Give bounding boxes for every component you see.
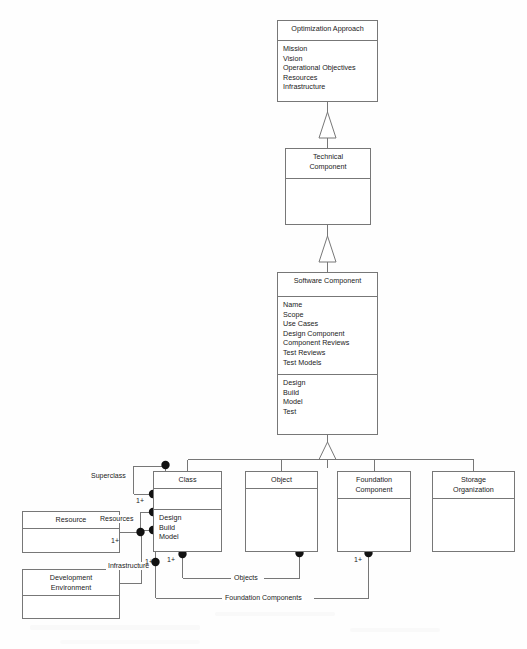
multiplicity-infrastructure: 1+	[145, 558, 153, 566]
class-class[interactable]: Class Design Build Model	[153, 471, 222, 552]
class-attributes	[286, 179, 370, 185]
edge-label-resources: Resources	[98, 515, 135, 523]
class-name: Optimization Approach	[278, 21, 377, 41]
class-name: Development Environment	[23, 570, 119, 596]
scan-artifact	[215, 612, 335, 616]
multiplicity-foundation-components: 1+	[354, 556, 362, 564]
diagram-canvas: Optimization Approach Mission Vision Ope…	[0, 0, 527, 649]
scan-artifact	[30, 625, 200, 630]
class-name: Object	[246, 472, 317, 489]
class-name: Storage Organization	[433, 472, 514, 499]
class-attributes: Name Scope Use Cases Design Component Co…	[278, 297, 377, 375]
class-attributes	[154, 489, 221, 510]
class-operations: Design Build Model Test	[278, 375, 377, 419]
class-attributes: Mission Vision Operational Objectives Re…	[278, 41, 377, 95]
class-technical-component[interactable]: Technical Component	[285, 148, 371, 225]
class-development-environment[interactable]: Development Environment	[22, 569, 120, 619]
class-object[interactable]: Object	[245, 471, 318, 552]
class-attributes	[433, 499, 514, 505]
association-dot	[161, 461, 169, 469]
scan-artifact	[350, 628, 440, 632]
class-name: Foundation Component	[338, 472, 410, 499]
edge-label-superclass: Superclass	[89, 472, 128, 480]
multiplicity-superclass: 1+	[136, 497, 144, 505]
generalization-arrow	[319, 112, 336, 138]
generalization-arrow	[319, 442, 336, 460]
class-attributes	[23, 596, 119, 602]
generalization-arrow	[319, 236, 336, 262]
class-storage-organization[interactable]: Storage Organization	[432, 471, 515, 552]
edge-label-foundation-components: Foundation Components	[223, 594, 304, 602]
association-dot	[136, 528, 144, 536]
class-operations: Design Build Model	[154, 510, 221, 545]
multiplicity-objects: 1+	[167, 556, 175, 564]
class-name: Software Component	[278, 273, 377, 297]
class-optimization-approach[interactable]: Optimization Approach Mission Vision Ope…	[277, 20, 378, 102]
class-attributes	[23, 529, 119, 535]
class-attributes	[338, 499, 410, 505]
multiplicity-resources: 1+	[111, 537, 119, 545]
class-attributes	[246, 489, 317, 495]
edge-label-objects: Objects	[232, 574, 260, 582]
class-software-component[interactable]: Software Component Name Scope Use Cases …	[277, 272, 378, 435]
class-name: Technical Component	[286, 149, 370, 179]
class-foundation-component[interactable]: Foundation Component	[337, 471, 411, 552]
class-name: Class	[154, 472, 221, 489]
scan-artifact	[60, 640, 200, 644]
